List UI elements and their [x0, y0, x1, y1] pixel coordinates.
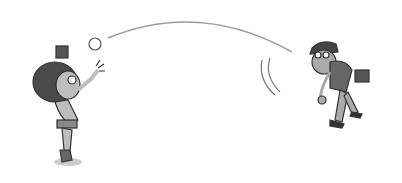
ball-trajectory	[108, 22, 292, 52]
ball	[89, 38, 101, 50]
boy-figure	[33, 46, 105, 166]
scene-svg	[0, 0, 402, 183]
man-figure	[261, 42, 369, 128]
illustration	[0, 0, 402, 183]
